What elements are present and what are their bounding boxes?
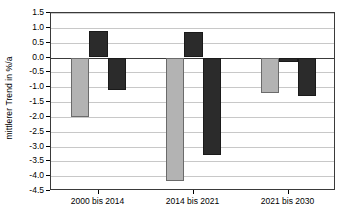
y-tick-label: 0.0 bbox=[32, 52, 44, 61]
x-tick-mark bbox=[288, 190, 289, 194]
bar bbox=[279, 58, 297, 62]
y-tick-mark bbox=[46, 71, 50, 72]
y-tick-mark bbox=[46, 42, 50, 43]
gridline bbox=[51, 87, 334, 88]
y-tick-label: 1.0 bbox=[32, 23, 44, 32]
bar bbox=[298, 58, 316, 97]
x-axis-category-label: 2014 bis 2021 bbox=[166, 196, 219, 206]
gridline bbox=[51, 102, 334, 103]
bar bbox=[89, 31, 107, 58]
y-tick-mark bbox=[46, 146, 50, 147]
y-tick-mark bbox=[46, 131, 50, 132]
gridline bbox=[51, 132, 334, 133]
gridline bbox=[51, 13, 334, 14]
gridline bbox=[51, 161, 334, 162]
y-tick-label: -1.0 bbox=[29, 82, 44, 91]
gridline bbox=[51, 28, 334, 29]
bar bbox=[203, 58, 221, 156]
y-tick-mark bbox=[46, 160, 50, 161]
x-axis-category-label: 2000 bis 2014 bbox=[71, 196, 124, 206]
y-axis-tick-labels: 1.51.00.50.0-0.5-1.0-1.5-2.0-2.5-3.0-3.5… bbox=[18, 12, 46, 190]
y-tick-label: 0.5 bbox=[32, 37, 44, 46]
y-tick-label: 1.5 bbox=[32, 8, 44, 17]
y-tick-mark bbox=[46, 175, 50, 176]
bar bbox=[166, 58, 184, 181]
bar bbox=[71, 58, 89, 117]
y-tick-mark bbox=[46, 12, 50, 13]
y-tick-mark bbox=[46, 101, 50, 102]
y-tick-mark bbox=[46, 27, 50, 28]
bar bbox=[108, 58, 126, 91]
bar bbox=[261, 58, 279, 94]
y-tick-label: -2.5 bbox=[29, 126, 44, 135]
bar-chart: mittlerer Trend in %/a 1.51.00.50.0-0.5-… bbox=[0, 0, 343, 220]
y-tick-mark bbox=[46, 116, 50, 117]
y-tick-label: -3.0 bbox=[29, 141, 44, 150]
gridline bbox=[51, 176, 334, 177]
x-axis-category-label: 2021 bis 2030 bbox=[261, 196, 314, 206]
y-tick-label: -4.5 bbox=[29, 186, 44, 195]
x-tick-mark bbox=[193, 190, 194, 194]
y-tick-mark bbox=[46, 57, 50, 58]
y-axis-title: mittlerer Trend in %/a bbox=[0, 0, 18, 195]
bar bbox=[184, 32, 202, 57]
y-tick-label: -4.0 bbox=[29, 171, 44, 180]
y-tick-mark bbox=[46, 86, 50, 87]
gridline bbox=[51, 117, 334, 118]
y-tick-label: -2.0 bbox=[29, 112, 44, 121]
gridline bbox=[51, 72, 334, 73]
y-tick-mark bbox=[46, 190, 50, 191]
y-tick-label: -1.5 bbox=[29, 97, 44, 106]
y-tick-label: -0.5 bbox=[29, 67, 44, 76]
x-tick-mark bbox=[98, 190, 99, 194]
plot-area bbox=[50, 12, 335, 190]
y-tick-label: -3.5 bbox=[29, 156, 44, 165]
y-axis-title-text: mittlerer Trend in %/a bbox=[4, 56, 14, 139]
gridline bbox=[51, 147, 334, 148]
